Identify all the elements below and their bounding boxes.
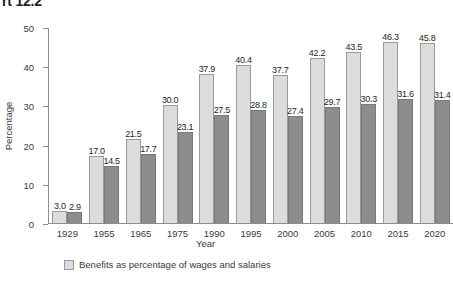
bar: 43.5 [346, 52, 361, 223]
bar-group: 37.727.42000 [269, 28, 306, 223]
bar: 45.8 [420, 43, 435, 223]
bar-value-label: 30.0 [162, 95, 178, 105]
bar-groups: 3.02.9192917.014.5195521.517.7196530.023… [49, 28, 453, 223]
y-axis-tick: 10 [43, 185, 48, 186]
bar-value-label: 21.5 [125, 129, 141, 139]
bar: 46.3 [383, 42, 398, 223]
bar: 3.0 [52, 211, 67, 223]
bar-value-label: 31.6 [397, 89, 413, 99]
x-axis-tick-label: 2000 [277, 228, 298, 239]
bar-value-label: 45.8 [419, 33, 435, 43]
x-axis-tick-label: 1965 [130, 228, 151, 239]
bar-value-label: 46.3 [382, 32, 398, 42]
bar-value-label: 40.4 [235, 55, 251, 65]
y-axis-tick-label: 30 [23, 101, 34, 112]
bar: 27.4 [288, 116, 303, 223]
x-axis-tick-label: 1929 [57, 228, 78, 239]
bar-value-label: 27.5 [214, 105, 230, 115]
y-axis-label: Percentage [3, 102, 14, 151]
x-axis-tick-label: 2010 [351, 228, 372, 239]
bar-group: 42.229.72005 [306, 28, 343, 223]
bar-value-label: 14.5 [103, 156, 119, 166]
bar-group: 45.831.42020 [416, 28, 453, 223]
bar: 2.9 [67, 212, 82, 223]
bar-group: 30.023.11975 [159, 28, 196, 223]
bar: 30.0 [163, 105, 178, 223]
bar-value-label: 17.7 [140, 144, 156, 154]
bar-group: 40.428.81995 [233, 28, 270, 223]
y-axis-tick: 0 [43, 224, 48, 225]
bar: 29.7 [325, 107, 340, 223]
bar: 37.7 [273, 75, 288, 223]
bar-value-label: 43.5 [346, 42, 362, 52]
bar-value-label: 30.3 [361, 94, 377, 104]
bar-value-label: 27.4 [287, 106, 303, 116]
plot-area: 01020304050 Percentage 3.02.9192917.014.… [48, 28, 453, 224]
x-axis-tick-label: 1995 [240, 228, 261, 239]
bar-group: 17.014.51955 [86, 28, 123, 223]
legend-swatch-icon [64, 260, 74, 270]
bar: 31.6 [398, 99, 413, 223]
y-axis-tick: 50 [43, 28, 48, 29]
x-axis-tick-label: 1955 [94, 228, 115, 239]
x-axis-tick-label: 2015 [387, 228, 408, 239]
bar: 23.1 [178, 132, 193, 223]
y-axis-tick: 40 [43, 67, 48, 68]
bar-group: 21.517.71965 [122, 28, 159, 223]
bar: 14.5 [104, 166, 119, 223]
bar-value-label: 31.4 [434, 90, 450, 100]
bar-value-label: 17.0 [88, 146, 104, 156]
bar-group: 3.02.91929 [49, 28, 86, 223]
bar-value-label: 2.9 [69, 202, 81, 212]
bar-group: 37.927.51990 [196, 28, 233, 223]
y-axis-tick-label: 0 [29, 219, 34, 230]
x-axis-tick-label: 2020 [424, 228, 445, 239]
bar: 30.3 [361, 104, 376, 223]
bar-value-label: 29.7 [324, 97, 340, 107]
bar-value-label: 37.7 [272, 65, 288, 75]
bar: 21.5 [126, 139, 141, 223]
bar-value-label: 3.0 [54, 201, 66, 211]
bar: 28.8 [251, 110, 266, 223]
bar: 40.4 [236, 65, 251, 223]
chart-title: rt 12.2 [2, 0, 42, 9]
bar: 37.9 [199, 74, 214, 223]
bar-group: 43.530.32010 [343, 28, 380, 223]
chart-container: rt 12.2 01020304050 Percentage 3.02.9192… [0, 0, 453, 281]
y-axis-tick: 20 [43, 146, 48, 147]
bar-group: 46.331.62015 [380, 28, 417, 223]
chart-legend: Benefits as percentage of wages and sala… [64, 259, 271, 270]
bar-value-label: 23.1 [177, 122, 193, 132]
bar-value-label: 28.8 [250, 100, 266, 110]
y-axis-tick-label: 20 [23, 140, 34, 151]
bar: 31.4 [435, 100, 450, 223]
bar-value-label: 37.9 [199, 64, 215, 74]
y-axis-tick-label: 40 [23, 62, 34, 73]
x-axis-label: Year [196, 238, 215, 249]
y-axis-tick-label: 10 [23, 179, 34, 190]
x-axis-tick-label: 2005 [314, 228, 335, 239]
bar: 17.0 [89, 156, 104, 223]
y-axis-tick: 30 [43, 106, 48, 107]
x-axis-line [48, 223, 453, 224]
x-axis-tick-label: 1975 [167, 228, 188, 239]
bar: 27.5 [214, 115, 229, 223]
legend-item-label: Benefits as percentage of wages and sala… [79, 259, 271, 270]
bar-value-label: 42.2 [309, 48, 325, 58]
bar: 17.7 [141, 154, 156, 223]
bar: 42.2 [310, 58, 325, 223]
y-axis-tick-label: 50 [23, 23, 34, 34]
